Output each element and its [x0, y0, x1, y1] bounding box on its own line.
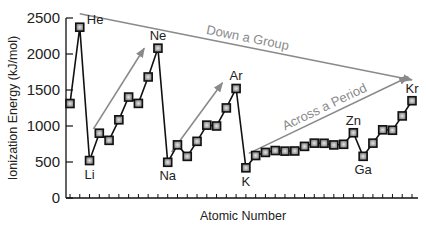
data-point-marker: [76, 23, 84, 31]
y-tick-label: 1000: [27, 117, 60, 134]
annotation-arrow: [80, 14, 412, 80]
x-axis: [66, 194, 418, 198]
data-point-marker: [398, 112, 406, 120]
annotation-label: Down a Group: [205, 22, 290, 53]
data-point-marker: [408, 97, 416, 105]
data-point-marker: [193, 137, 201, 145]
ionization-energy-chart: Down a GroupAcross a Period 050010001500…: [0, 0, 426, 226]
data-point-marker: [173, 141, 181, 149]
data-point-marker: [222, 104, 230, 112]
element-label-k: K: [242, 174, 251, 189]
element-label-ga: Ga: [354, 162, 372, 177]
data-point-marker: [320, 139, 328, 147]
data-point-marker: [242, 164, 250, 172]
y-tick-label: 0: [52, 189, 60, 206]
data-point-marker: [105, 136, 113, 144]
y-tick-label: 500: [35, 153, 60, 170]
data-point-marker: [115, 116, 123, 124]
data-point-marker: [154, 44, 162, 52]
data-point-marker: [261, 148, 269, 156]
data-point-marker: [310, 139, 318, 147]
y-tick-label: 2500: [27, 9, 60, 26]
element-label-kr: Kr: [406, 81, 420, 96]
annotation-arrows: Down a GroupAcross a Period: [80, 14, 412, 154]
data-point-marker: [232, 84, 240, 92]
y-tick-label: 2000: [27, 45, 60, 62]
data-point-marker: [125, 93, 133, 101]
element-label-ne: Ne: [150, 28, 167, 43]
data-point-marker: [340, 140, 348, 148]
data-point-marker: [281, 147, 289, 155]
data-point-marker: [359, 152, 367, 160]
data-point-marker: [144, 73, 152, 81]
element-label-zn: Zn: [346, 113, 361, 128]
element-label-ar: Ar: [230, 68, 244, 83]
x-axis-title: Atomic Number: [200, 209, 286, 223]
data-point-marker: [301, 142, 309, 150]
data-point-marker: [95, 129, 103, 137]
data-point-marker: [164, 158, 172, 166]
data-point-marker: [134, 99, 142, 107]
data-point-marker: [271, 147, 279, 155]
data-point-marker: [66, 100, 74, 108]
data-point-marker: [388, 126, 396, 134]
data-point-marker: [183, 152, 191, 160]
data-point-marker: [252, 152, 260, 160]
data-point-marker: [291, 147, 299, 155]
data-point-marker: [86, 157, 94, 165]
element-label-na: Na: [159, 168, 176, 183]
data-point-marker: [203, 121, 211, 129]
data-point-marker: [330, 141, 338, 149]
data-point-marker: [213, 122, 221, 130]
element-label-he: He: [87, 12, 104, 27]
element-label-li: Li: [84, 167, 94, 182]
y-tick-label: 1500: [27, 81, 60, 98]
data-point-marker: [349, 129, 357, 137]
data-point-marker: [369, 139, 377, 147]
data-point-marker: [379, 126, 387, 134]
y-axis-title: Ionization Energy (kJ/mol): [6, 36, 20, 181]
